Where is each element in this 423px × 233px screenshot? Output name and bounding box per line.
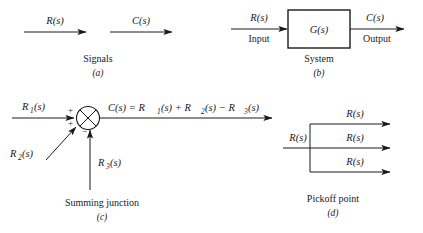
pickoff-output-bot-label: R(s) bbox=[345, 156, 364, 168]
system-output-signal: C(s) bbox=[366, 12, 385, 24]
signal-label-r: R(s) bbox=[45, 15, 64, 27]
summing-equation-lead: C(s) = R bbox=[108, 102, 145, 114]
summing-equation-mid1: (s) + R bbox=[161, 102, 191, 114]
summing-input2-suffix: (s) bbox=[22, 148, 34, 160]
block-diagram-figure: R(s) C(s) Signals (a) R(s) Input G(s) C(… bbox=[0, 0, 423, 233]
summing-input1-suffix: (s) bbox=[34, 101, 46, 113]
panel-c-caption: Summing junction bbox=[65, 197, 139, 208]
pickoff-output-mid-label: R(s) bbox=[345, 132, 364, 144]
panel-a-letter: (a) bbox=[92, 68, 103, 79]
summing-equation-mid2: (s) − R bbox=[205, 102, 235, 114]
pickoff-input-label: R(s) bbox=[288, 132, 307, 144]
summing-input2-line bbox=[46, 127, 76, 160]
summing-input3-label: R bbox=[97, 157, 105, 168]
system-transfer-function: G(s) bbox=[310, 24, 329, 36]
panel-c-letter: (c) bbox=[97, 212, 108, 223]
system-input-signal: R(s) bbox=[249, 12, 268, 24]
panel-d-letter: (d) bbox=[327, 208, 338, 219]
panel-d-pickoff-point: R(s) R(s) R(s) R(s) Pickoff point (d) bbox=[283, 108, 390, 219]
system-output-label: Output bbox=[363, 33, 391, 44]
summing-input3-suffix: (s) bbox=[110, 157, 122, 169]
panel-c-summing-junction: R 1 (s) + R 2 (s) + R 3 (s) − C(s) = R 1 bbox=[9, 101, 272, 223]
signal-label-c: C(s) bbox=[132, 15, 151, 27]
pickoff-output-top-label: R(s) bbox=[345, 108, 364, 120]
summing-equation-tail: (s) bbox=[248, 102, 260, 114]
panel-b-system: R(s) Input G(s) C(s) Output System (b) bbox=[231, 10, 404, 79]
summing-input2-label: R bbox=[9, 148, 17, 159]
panel-d-caption: Pickoff point bbox=[307, 193, 360, 204]
summing-sign-1: + bbox=[68, 105, 73, 115]
summing-input1-label: R bbox=[21, 101, 29, 112]
panel-b-letter: (b) bbox=[313, 68, 324, 79]
panel-a-signals: R(s) C(s) Signals (a) bbox=[24, 15, 172, 79]
panel-a-caption: Signals bbox=[83, 53, 113, 64]
summing-sign-2: + bbox=[68, 118, 73, 128]
panel-b-caption: System bbox=[304, 53, 334, 64]
system-input-label: Input bbox=[248, 33, 269, 44]
